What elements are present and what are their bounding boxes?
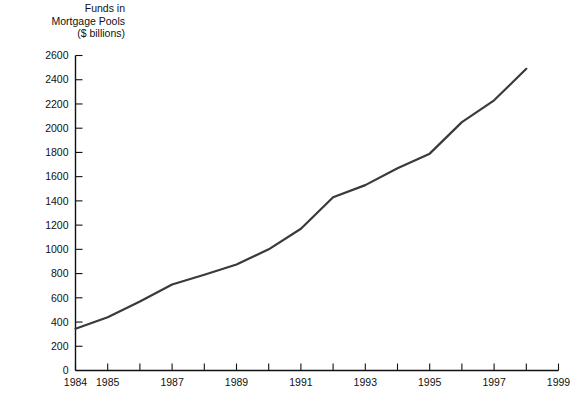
x-axis-tick-label: 1985: [96, 376, 120, 388]
x-axis-tick-label: 1999: [547, 376, 571, 388]
y-axis-tick-label: 1200: [45, 219, 69, 231]
x-axis-tick-label: 1997: [482, 376, 506, 388]
data-series-line: [76, 69, 527, 329]
y-axis-tick-label: 1400: [45, 195, 69, 207]
y-axis-tick-label: 200: [51, 340, 69, 352]
x-axis-tick-label: 1991: [289, 376, 313, 388]
y-axis-tick-label: 400: [51, 316, 69, 328]
x-axis-tick-label: 1995: [418, 376, 442, 388]
x-axis-ticks: 198419851987198919911993199519971999: [64, 364, 571, 388]
y-axis-tick-label: 1000: [45, 243, 69, 255]
line-chart-plot: 0200400600800100012001400160018002000220…: [0, 0, 571, 402]
y-axis-tick-label: 2000: [45, 122, 69, 134]
y-axis-tick-label: 1600: [45, 170, 69, 182]
y-axis-tick-label: 800: [51, 267, 69, 279]
y-axis-tick-label: 1800: [45, 146, 69, 158]
y-axis-tick-label: 600: [51, 292, 69, 304]
x-axis-tick-label: 1993: [354, 376, 378, 388]
y-axis-tick-label: 0: [63, 364, 69, 376]
x-axis-tick-label: 1984: [64, 376, 88, 388]
x-axis-tick-label: 1989: [225, 376, 249, 388]
x-axis-tick-label: 1987: [160, 376, 184, 388]
y-axis-tick-label: 2600: [45, 49, 69, 61]
chart-container: Funds in Mortgage Pools ($ billions) 020…: [0, 0, 571, 402]
y-axis-tick-label: 2200: [45, 98, 69, 110]
y-axis-tick-label: 2400: [45, 73, 69, 85]
